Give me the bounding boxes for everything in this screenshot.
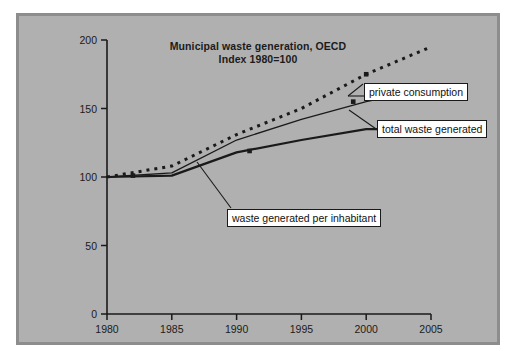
x-tick-label-2000: 2000 <box>355 323 379 335</box>
x-tick-label-1980: 1980 <box>95 323 119 335</box>
data-point-marker <box>131 173 136 178</box>
leader-line-total-waste <box>349 110 379 131</box>
chart-panel: Municipal waste generation, OECD Index 1… <box>16 13 500 345</box>
leader-line-private-consumption-kink <box>348 84 363 96</box>
x-axis-ticks <box>107 314 431 320</box>
y-tick-label-50: 50 <box>85 240 97 252</box>
chart-plot-area: 0 50 100 150 200 1980 1985 1990 1995 200… <box>19 16 503 348</box>
annotation-total-waste-generated: total waste generated <box>377 120 487 138</box>
data-point-marker <box>364 72 369 77</box>
data-point-marker <box>247 149 252 154</box>
x-tick-label-1985: 1985 <box>160 323 184 335</box>
annotation-private-consumption: private consumption <box>364 83 468 101</box>
x-tick-label-1990: 1990 <box>225 323 249 335</box>
chart-figure: Municipal waste generation, OECD Index 1… <box>0 0 527 363</box>
y-tick-label-100: 100 <box>79 171 97 183</box>
series-line-private-consumption <box>107 47 431 177</box>
x-tick-label-2005: 2005 <box>419 323 443 335</box>
y-tick-label-200: 200 <box>79 34 97 46</box>
y-tick-label-150: 150 <box>79 103 97 115</box>
leader-line-waste-per-inhabitant <box>197 162 231 208</box>
annotation-waste-generated-per-inhabitant: waste generated per inhabitant <box>227 209 381 227</box>
y-tick-label-0: 0 <box>91 308 97 320</box>
series-markers <box>131 72 369 178</box>
data-point-marker <box>351 99 356 104</box>
x-tick-label-1995: 1995 <box>290 323 314 335</box>
